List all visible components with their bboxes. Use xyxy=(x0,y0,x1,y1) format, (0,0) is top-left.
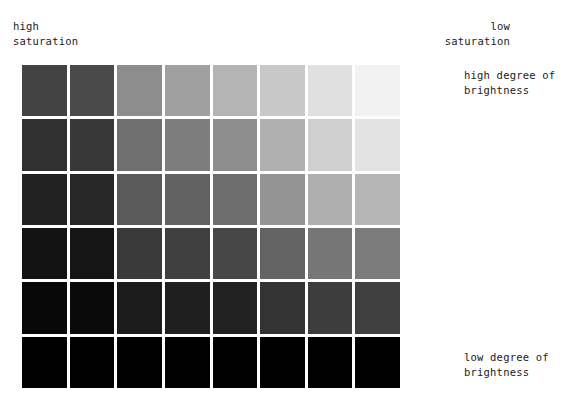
swatch-cell xyxy=(260,174,305,225)
swatch-cell xyxy=(70,282,115,333)
swatch-cell xyxy=(260,228,305,279)
swatch-cell xyxy=(260,337,305,388)
swatch-cell xyxy=(70,174,115,225)
label-low-saturation: low saturation xyxy=(445,19,510,49)
swatch-cell xyxy=(355,119,400,170)
swatch-cell xyxy=(355,337,400,388)
swatch-cell xyxy=(70,119,115,170)
swatch-cell xyxy=(308,282,353,333)
swatch-cell xyxy=(165,174,210,225)
swatch-cell xyxy=(308,65,353,116)
swatch-cell xyxy=(213,65,258,116)
swatch-cell xyxy=(70,228,115,279)
swatch-cell xyxy=(355,174,400,225)
swatch-cell xyxy=(355,228,400,279)
swatch-cell xyxy=(213,228,258,279)
swatch-cell xyxy=(117,174,162,225)
swatch-cell xyxy=(165,119,210,170)
label-high-degree-of-brightness: high degree of brightness xyxy=(464,68,555,98)
swatch-cell xyxy=(165,337,210,388)
figure-canvas: high saturation low saturation high degr… xyxy=(0,0,566,405)
swatch-cell xyxy=(213,119,258,170)
swatch-cell xyxy=(70,337,115,388)
swatch-cell xyxy=(308,119,353,170)
swatch-cell xyxy=(165,228,210,279)
swatch-cell xyxy=(22,119,67,170)
swatch-cell xyxy=(355,65,400,116)
swatch-cell xyxy=(22,282,67,333)
swatch-cell xyxy=(260,65,305,116)
swatch-cell xyxy=(308,174,353,225)
swatch-cell xyxy=(308,228,353,279)
swatch-cell xyxy=(213,174,258,225)
swatch-cell xyxy=(22,174,67,225)
label-high-saturation: high saturation xyxy=(13,19,78,49)
swatch-cell xyxy=(117,337,162,388)
swatch-cell xyxy=(165,65,210,116)
swatch-cell xyxy=(260,119,305,170)
swatch-cell xyxy=(165,282,210,333)
swatch-cell xyxy=(355,282,400,333)
swatch-cell xyxy=(117,119,162,170)
swatch-cell xyxy=(213,282,258,333)
swatch-cell xyxy=(22,337,67,388)
swatch-cell xyxy=(22,65,67,116)
swatch-cell xyxy=(213,337,258,388)
label-low-degree-of-brightness: low degree of brightness xyxy=(464,350,549,380)
swatch-cell xyxy=(260,282,305,333)
swatch-cell xyxy=(117,282,162,333)
swatch-cell xyxy=(22,228,67,279)
swatch-cell xyxy=(117,228,162,279)
swatch-cell xyxy=(70,65,115,116)
swatch-cell xyxy=(308,337,353,388)
swatch-grid xyxy=(22,65,400,388)
swatch-cell xyxy=(117,65,162,116)
